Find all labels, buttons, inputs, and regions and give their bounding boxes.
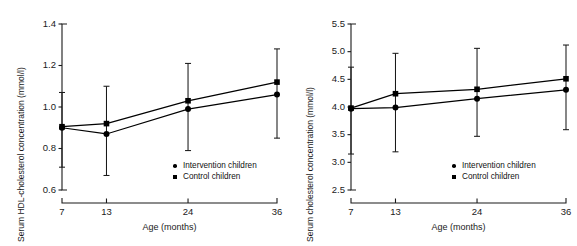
- plot-canvas: [0, 0, 288, 246]
- y-axis-tick-label: 4.5: [317, 73, 345, 84]
- square-marker-icon: [452, 175, 456, 179]
- y-axis-tick-label: 0.6: [28, 184, 56, 195]
- legend-item-label: Intervention children: [183, 161, 257, 170]
- circle-marker-icon: [173, 164, 177, 168]
- y-axis-tick-label: 1.2: [28, 59, 56, 70]
- square-marker-icon: [173, 175, 177, 179]
- legend-item: Control children: [451, 171, 536, 182]
- y-axis-tick-label: 2.5: [317, 184, 345, 195]
- legend-item: Intervention children: [451, 160, 536, 171]
- x-axis-tick-label: 13: [92, 206, 120, 217]
- y-axis-tick-label: 3.5: [317, 128, 345, 139]
- circle-marker-icon: [452, 164, 456, 168]
- legend-item-label: Control children: [462, 172, 519, 181]
- y-axis-tick-label: 3.0: [317, 156, 345, 167]
- legend: Intervention childrenControl children: [172, 160, 257, 182]
- x-axis-tick-label: 36: [263, 206, 291, 217]
- total-cholesterol-panel: Serum cholesterol concentration (mmol/l)…: [289, 0, 577, 246]
- x-axis-tick-label: 13: [381, 206, 409, 217]
- x-axis-tick-label: 7: [337, 206, 365, 217]
- y-axis-tick-label: 5.0: [317, 45, 345, 56]
- legend-item-label: Control children: [183, 172, 240, 181]
- figure-two-panel-line-charts: Serum HDL-cholesterol concentration (mmo…: [0, 0, 577, 246]
- y-axis-tick-label: 1.4: [28, 18, 56, 29]
- hdl-cholesterol-panel: Serum HDL-cholesterol concentration (mmo…: [0, 0, 288, 246]
- x-axis-tick-label: 24: [174, 206, 202, 217]
- x-axis-tick-label: 7: [48, 206, 76, 217]
- y-axis-tick-label: 4.0: [317, 101, 345, 112]
- x-axis-tick-label: 24: [463, 206, 491, 217]
- y-axis-tick-label: 1.0: [28, 101, 56, 112]
- legend-item: Control children: [172, 171, 257, 182]
- plot-canvas: [289, 0, 577, 246]
- y-axis-tick-label: 5.5: [317, 18, 345, 29]
- x-axis-tick-label: 36: [552, 206, 577, 217]
- legend-item-label: Intervention children: [462, 161, 536, 170]
- y-axis-tick-label: 0.8: [28, 142, 56, 153]
- legend: Intervention childrenControl children: [451, 160, 536, 182]
- legend-item: Intervention children: [172, 160, 257, 171]
